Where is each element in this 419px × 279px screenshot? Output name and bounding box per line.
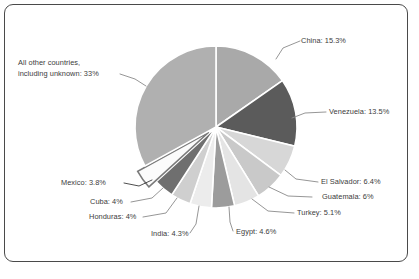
leader-line-china bbox=[276, 41, 300, 59]
leader-line-turkey bbox=[252, 199, 294, 213]
leader-line-el-salvador bbox=[285, 170, 318, 182]
chart-page: All other countries, including unknown: … bbox=[0, 0, 419, 279]
label-cuba: Cuba: 4% bbox=[90, 197, 123, 208]
label-el-salvador: El Salvador: 6.4% bbox=[321, 177, 381, 188]
label-egypt: Egypt: 4.6% bbox=[236, 227, 276, 238]
pie-slices bbox=[135, 46, 297, 208]
leader-line-guatemala bbox=[269, 187, 312, 197]
leader-line-egypt bbox=[229, 207, 233, 231]
leader-line-india bbox=[190, 206, 199, 233]
label-china: China: 15.3% bbox=[301, 36, 346, 47]
label-all-other-line1: All other countries, bbox=[18, 58, 138, 69]
leader-line-cuba bbox=[131, 188, 163, 202]
label-venezuela: Venezuela: 13.5% bbox=[329, 107, 389, 118]
pie-chart bbox=[0, 0, 419, 279]
label-honduras: Honduras: 4% bbox=[89, 212, 136, 223]
leader-line-honduras bbox=[143, 198, 177, 217]
label-turkey: Turkey: 5.1% bbox=[297, 208, 341, 219]
label-all-other-countries: All other countries, including unknown: … bbox=[18, 58, 138, 79]
label-india: India: 4.3% bbox=[151, 229, 189, 240]
label-guatemala: Guatemala: 6% bbox=[322, 192, 374, 203]
label-mexico: Mexico: 3.8% bbox=[61, 178, 106, 189]
label-all-other-line2: including unknown: 33% bbox=[18, 69, 138, 80]
